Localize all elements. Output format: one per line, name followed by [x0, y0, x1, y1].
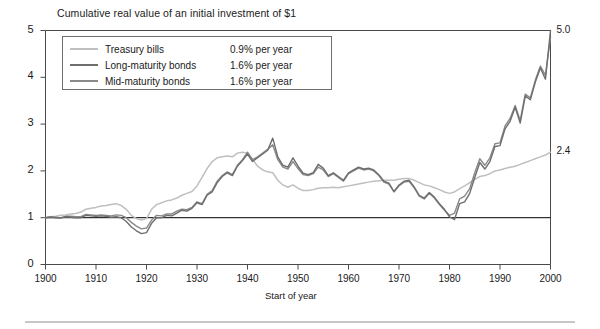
y-tick-label: 0 [12, 257, 34, 269]
series-end-label: 2.4 [557, 145, 571, 156]
legend-label-mid-maturity-bonds: Mid-maturity bonds [105, 76, 230, 87]
x-tick-label: 1970 [377, 273, 421, 284]
chart-legend: Treasury bills 0.9% per year Long-maturi… [62, 36, 332, 90]
footer-divider [25, 321, 575, 323]
y-tick-label: 4 [12, 69, 34, 81]
x-axis-title: Start of year [265, 290, 317, 301]
x-tick-label: 1940 [226, 273, 270, 284]
legend-label-long-maturity-bonds: Long-maturity bonds [105, 60, 230, 71]
x-tick-label: 1990 [478, 273, 522, 284]
x-tick-label: 1910 [74, 273, 118, 284]
series-line-treasury-bills [46, 152, 551, 220]
x-tick-label: 1960 [327, 273, 371, 284]
legend-rate-mid-maturity-bonds: 1.6% per year [230, 76, 292, 87]
series-end-label: 5.0 [557, 24, 571, 35]
legend-item-treasury-bills: Treasury bills 0.9% per year [70, 41, 324, 57]
chart-title: Cumulative real value of an initial inve… [57, 7, 296, 19]
legend-item-long-maturity-bonds: Long-maturity bonds 1.6% per year [70, 57, 324, 73]
legend-swatch-long-maturity-bonds [70, 64, 98, 66]
x-tick-label: 1920 [125, 273, 169, 284]
legend-rate-long-maturity-bonds: 1.6% per year [230, 60, 292, 71]
x-tick-label: 1980 [428, 273, 472, 284]
x-tick-label: 2000 [529, 273, 573, 284]
x-tick-label: 1930 [175, 273, 219, 284]
legend-item-mid-maturity-bonds: Mid-maturity bonds 1.6% per year [70, 73, 324, 89]
y-tick-label: 5 [12, 23, 34, 35]
y-tick-label: 2 [12, 163, 34, 175]
x-tick-label: 1900 [24, 273, 68, 284]
y-tick-label: 1 [12, 210, 34, 222]
y-tick-label: 3 [12, 116, 34, 128]
legend-label-treasury-bills: Treasury bills [105, 44, 230, 55]
chart-figure: Cumulative real value of an initial inve… [0, 0, 600, 329]
legend-swatch-mid-maturity-bonds [70, 80, 98, 82]
legend-rate-treasury-bills: 0.9% per year [230, 44, 292, 55]
x-tick-label: 1950 [276, 273, 320, 284]
legend-swatch-treasury-bills [70, 48, 98, 50]
